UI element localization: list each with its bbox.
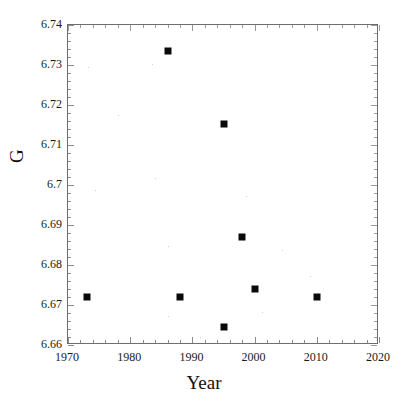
y-tick-label: 6.71: [18, 138, 62, 150]
scan-speck: [95, 190, 96, 191]
y-tick-label: 6.72: [18, 98, 62, 110]
data-point: [176, 294, 183, 301]
x-tick-label: 1990: [179, 351, 203, 363]
x-tick-major: [379, 337, 380, 343]
y-tick-label: 6.73: [18, 58, 62, 70]
x-tick-label: 2020: [366, 351, 390, 363]
y-tick-label: 6.7: [18, 178, 62, 190]
data-points-layer: [68, 25, 377, 343]
y-tick-label: 6.68: [18, 258, 62, 270]
y-tick-label: 6.66: [18, 338, 62, 350]
y-axis-title: G: [6, 149, 28, 163]
scan-speck: [155, 178, 156, 179]
x-tick-label: 1970: [55, 351, 79, 363]
data-point: [220, 324, 227, 331]
x-axis-title: Year: [0, 372, 408, 394]
data-point: [239, 234, 246, 241]
scan-speck: [310, 276, 311, 277]
scatter-plot-figure: G Year 197019801990200020102020 6.666.67…: [0, 0, 408, 407]
x-tick-label: 2000: [242, 351, 266, 363]
y-tick-label: 6.69: [18, 218, 62, 230]
x-tick-major-top: [379, 25, 380, 31]
scan-speck: [152, 64, 153, 65]
scan-speck: [262, 312, 263, 313]
y-tick-label: 6.74: [18, 18, 62, 30]
data-point: [220, 121, 227, 128]
data-point: [164, 48, 171, 55]
scan-speck: [118, 115, 119, 116]
y-tick-label: 6.67: [18, 298, 62, 310]
data-point: [313, 294, 320, 301]
scan-speck: [168, 316, 169, 317]
scan-speck: [168, 246, 169, 247]
plot-area: [67, 24, 378, 344]
scan-speck: [282, 250, 283, 251]
data-point: [251, 286, 258, 293]
data-point: [83, 294, 90, 301]
scan-speck: [88, 67, 89, 68]
scan-speck: [246, 196, 247, 197]
y-tick-major: [68, 345, 74, 346]
y-tick-major-right: [371, 345, 377, 346]
scan-speck: [200, 337, 201, 338]
x-tick-label: 1980: [117, 351, 141, 363]
x-tick-label: 2010: [304, 351, 328, 363]
